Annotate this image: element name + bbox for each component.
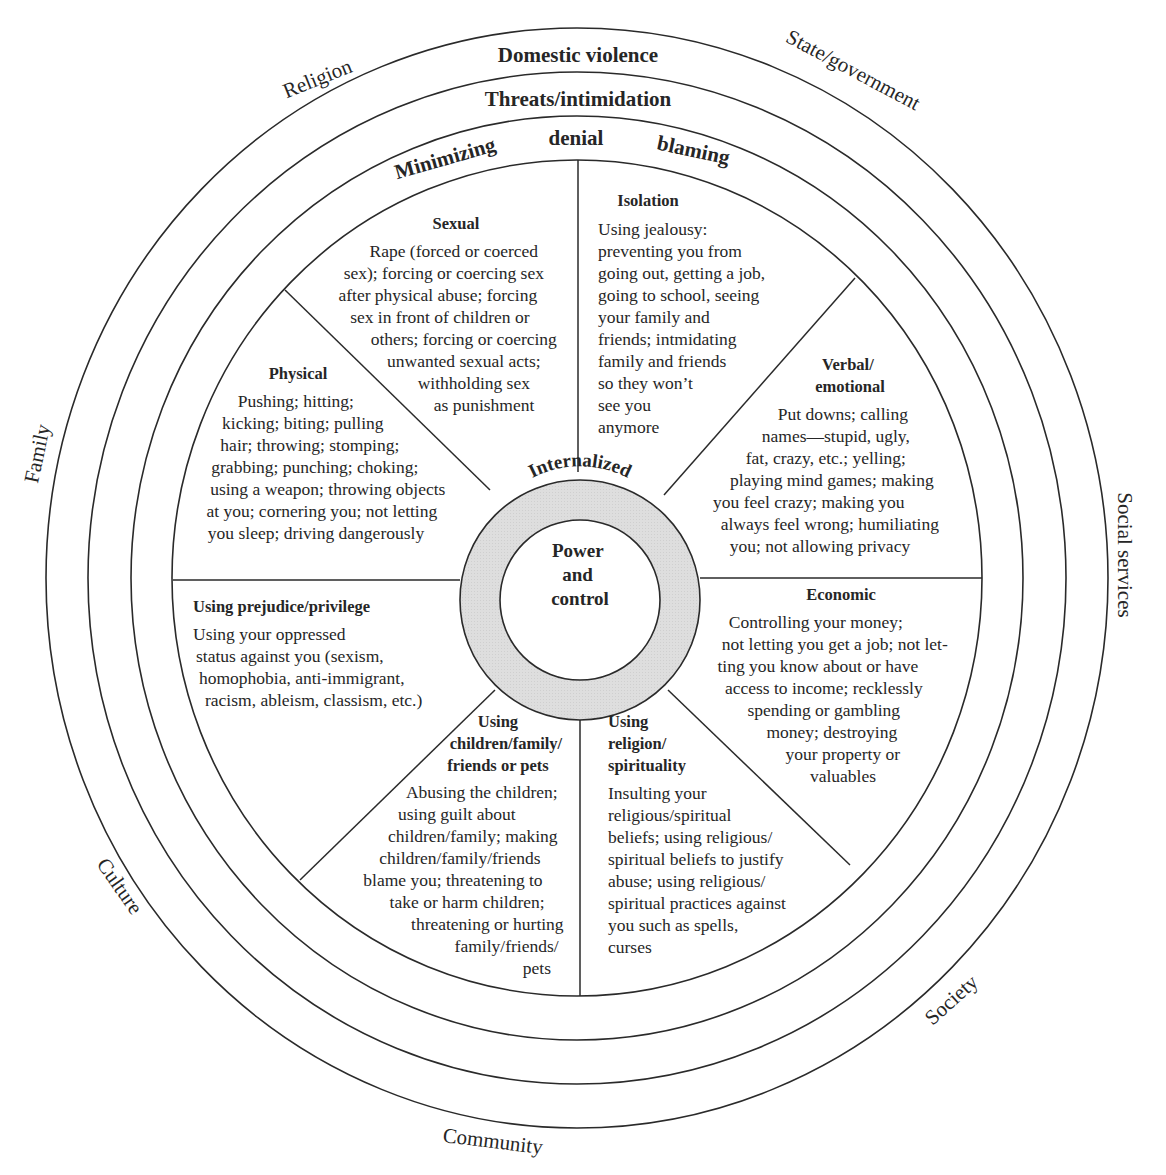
segment-verbal-emotional: Verbal/ emotional Put downs; calling nam… (713, 355, 943, 556)
power-control-wheel: Internalized Power and control Religion … (0, 0, 1166, 1175)
svg-text:Put downs; calling names: Put downs; calling names—stupid, ugly, f… (713, 404, 943, 556)
label-threats-intimidation: Threats/intimidation (485, 87, 672, 111)
svg-text:Physical: Physical (269, 364, 328, 383)
svg-text:Verbal/ emotional: Verbal/ emotional (815, 355, 885, 396)
svg-text:Using prejudice/privilege: Using prejudice/privilege (193, 597, 370, 616)
svg-text:Using religion/ sp: Using religion/ spirituality (608, 712, 687, 775)
label-society: Society (920, 969, 983, 1029)
svg-text:Using your oppressed sta: Using your oppressed status against you … (193, 624, 422, 710)
label-minimizing: Minimizing (392, 132, 499, 184)
label-denial: denial (549, 126, 604, 150)
label-domestic-violence: Domestic violence (498, 43, 658, 67)
label-religion: Religion (279, 54, 356, 104)
svg-text:Using children/family/: Using children/family/ friends or pets (447, 712, 566, 775)
segment-economic: Economic Controlling your money; not let… (717, 585, 952, 786)
segment-using-religion: Using religion/ spirituality Insulting y… (608, 712, 790, 957)
segment-sexual: Sexual Rape (forced or coerced sex); for… (338, 214, 561, 415)
segment-using-children: Using children/family/ friends or pets A… (363, 712, 568, 978)
svg-text:Sexual: Sexual (433, 214, 480, 233)
svg-text:Abusing the children; us: Abusing the children; using guilt about … (363, 782, 568, 978)
label-family: Family (19, 421, 55, 485)
svg-text:Rape (forced or coerced: Rape (forced or coerced sex); forcing or… (338, 241, 561, 415)
svg-text:Insulting your religious: Insulting your religious/spiritual belie… (608, 783, 790, 957)
label-community: Community (442, 1123, 545, 1159)
svg-text:Controlling your money;: Controlling your money; not letting you … (717, 612, 952, 786)
svg-text:Isolation: Isolation (617, 191, 678, 210)
label-social-services: Social services (1113, 492, 1137, 617)
segment-isolation: Isolation Using jealousy: preventing you… (598, 191, 770, 437)
label-state-government: State/government (782, 24, 924, 115)
label-culture: Culture (92, 853, 148, 918)
svg-text:Economic: Economic (806, 585, 876, 604)
segment-physical: Physical Pushing; hitting; kicking; biti… (206, 364, 449, 543)
segment-prejudice-privilege: Using prejudice/privilege Using your opp… (193, 597, 422, 710)
svg-text:Pushing; hitting; kickin: Pushing; hitting; kicking; biting; pulli… (206, 391, 449, 543)
label-blaming: blaming (655, 131, 732, 170)
internalized-label: Internalized (525, 449, 635, 482)
